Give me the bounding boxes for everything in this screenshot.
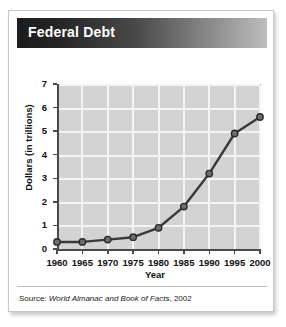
source-note: Source: World Almanac and Book of Facts,… [19,294,192,303]
x-axis-tick [158,250,160,254]
y-axis-tick [53,178,57,180]
x-axis-tick [132,250,134,254]
data-point-marker [231,130,237,136]
data-point-marker [181,203,187,209]
series-path [57,117,260,242]
data-point-marker [79,239,85,245]
x-axis-tick [259,250,261,254]
x-axis-tick [183,250,185,254]
x-axis-tick [82,250,84,254]
x-axis-tick [107,250,109,254]
chart-plot-wrapper: Dollars (in trillions) Year 012345671960… [9,11,275,313]
y-axis-tick-label: 5 [35,125,47,136]
source-publication: World Almanac and Book of Facts [49,294,170,303]
y-axis-tick [53,154,57,156]
y-axis-tick [53,130,57,132]
y-axis-tick-label: 0 [35,243,47,254]
source-year: , 2002 [169,294,191,303]
y-axis-tick [53,225,57,227]
y-axis-tick-label: 7 [35,78,47,89]
data-point-marker [206,170,212,176]
source-divider [17,286,267,287]
y-axis-tick-label: 3 [35,172,47,183]
data-point-marker [257,114,263,120]
data-point-marker [54,239,60,245]
y-axis-tick [53,83,57,85]
y-axis-tick-label: 6 [35,102,47,113]
y-axis-tick-label: 4 [35,149,47,160]
data-point-marker [105,236,111,242]
source-prefix: Source: [19,294,47,303]
data-point-marker [155,225,161,231]
chart-card: Federal Debt Dollars (in trillions) Year… [8,10,274,312]
y-axis-tick [53,201,57,203]
y-axis-tick-label: 2 [35,196,47,207]
x-axis-tick [56,250,58,254]
x-axis-tick [234,250,236,254]
y-axis-tick-label: 1 [35,219,47,230]
x-axis-tick [209,250,211,254]
x-axis-tick-label: 2000 [245,257,275,268]
y-axis-tick [53,107,57,109]
data-point-marker [130,234,136,240]
